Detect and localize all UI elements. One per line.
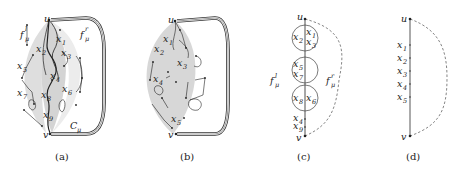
caption-d: (d)	[406, 151, 420, 162]
svg-text:4: 4	[55, 76, 60, 84]
svg-text:5: 5	[403, 97, 407, 105]
svg-text:3: 3	[312, 42, 316, 50]
svg-text:7: 7	[299, 74, 304, 82]
svg-text:5: 5	[299, 64, 303, 72]
face-right-label: f r μ	[325, 72, 335, 89]
figure: u v f l μ f r μ C μ x1 x2 x3 x4 x5 x6 x7…	[0, 0, 464, 171]
svg-text:3: 3	[403, 71, 407, 79]
path-vertex-labels: x1 x2 x3 x4 x5	[397, 39, 407, 105]
svg-text:2: 2	[159, 49, 164, 57]
svg-text:4: 4	[402, 84, 407, 92]
caption-c: (c)	[297, 151, 311, 162]
svg-text:μ: μ	[275, 81, 279, 89]
caption-a: (a)	[55, 151, 69, 162]
svg-text:8: 8	[299, 98, 303, 106]
face-left-label: f l μ	[269, 72, 279, 89]
svg-text:6: 6	[68, 89, 72, 97]
panel-a: u v f l μ f r μ C μ x1 x2 x3 x4 x5 x6 x7…	[17, 13, 104, 162]
svg-text:3: 3	[67, 53, 71, 61]
svg-text:5: 5	[177, 119, 181, 127]
circle-labels: x2 x1 x3 x5 x7 x8 x6	[293, 26, 316, 106]
svg-text:1: 1	[312, 32, 316, 40]
vertex-v-label: v	[168, 129, 174, 140]
panel-d: u v x1 x2 x3 x4 x5 (d)	[397, 13, 447, 162]
svg-text:2: 2	[298, 37, 303, 45]
vertex-v-label: v	[43, 129, 49, 140]
svg-text:9: 9	[299, 126, 303, 134]
panel-b: u v x1 x2 x3 x4 x5 (b)	[147, 14, 228, 162]
face-right-label: f r μ	[79, 25, 89, 43]
svg-text:μ: μ	[77, 126, 81, 134]
svg-text:1: 1	[169, 39, 173, 47]
svg-text:2: 2	[41, 49, 46, 57]
svg-text:8: 8	[47, 95, 51, 103]
svg-text:μ: μ	[331, 81, 335, 89]
svg-text:μ: μ	[85, 35, 89, 43]
svg-text:r: r	[85, 25, 89, 33]
panel-c: u v f l μ f r μ x2 x1 x3 x5 x7 x8 x6 x4 …	[269, 11, 342, 162]
vertex-u-label: u	[401, 13, 407, 24]
svg-text:l: l	[25, 25, 27, 33]
vertex-u-label: u	[297, 11, 303, 22]
svg-text:9: 9	[49, 115, 53, 123]
svg-text:4: 4	[158, 79, 163, 87]
vertex-v-label: v	[401, 131, 407, 142]
svg-text:5: 5	[23, 66, 27, 74]
face-left-label: f l μ	[19, 25, 29, 43]
svg-text:4: 4	[298, 118, 303, 126]
vertex-u-label: u	[168, 14, 174, 25]
dashed-arc	[410, 19, 447, 136]
svg-text:r: r	[331, 72, 335, 80]
svg-text:1: 1	[403, 45, 407, 53]
svg-text:1: 1	[62, 39, 66, 47]
svg-text:l: l	[275, 72, 277, 80]
caption-b: (b)	[180, 151, 194, 162]
svg-text:2: 2	[402, 58, 407, 66]
vertex-u-label: u	[44, 13, 50, 24]
svg-text:3: 3	[183, 63, 187, 71]
path-vertex-labels: x4 x9	[293, 112, 303, 134]
svg-text:μ: μ	[25, 35, 29, 43]
cycle-label: C μ	[70, 120, 81, 134]
svg-text:6: 6	[312, 98, 316, 106]
